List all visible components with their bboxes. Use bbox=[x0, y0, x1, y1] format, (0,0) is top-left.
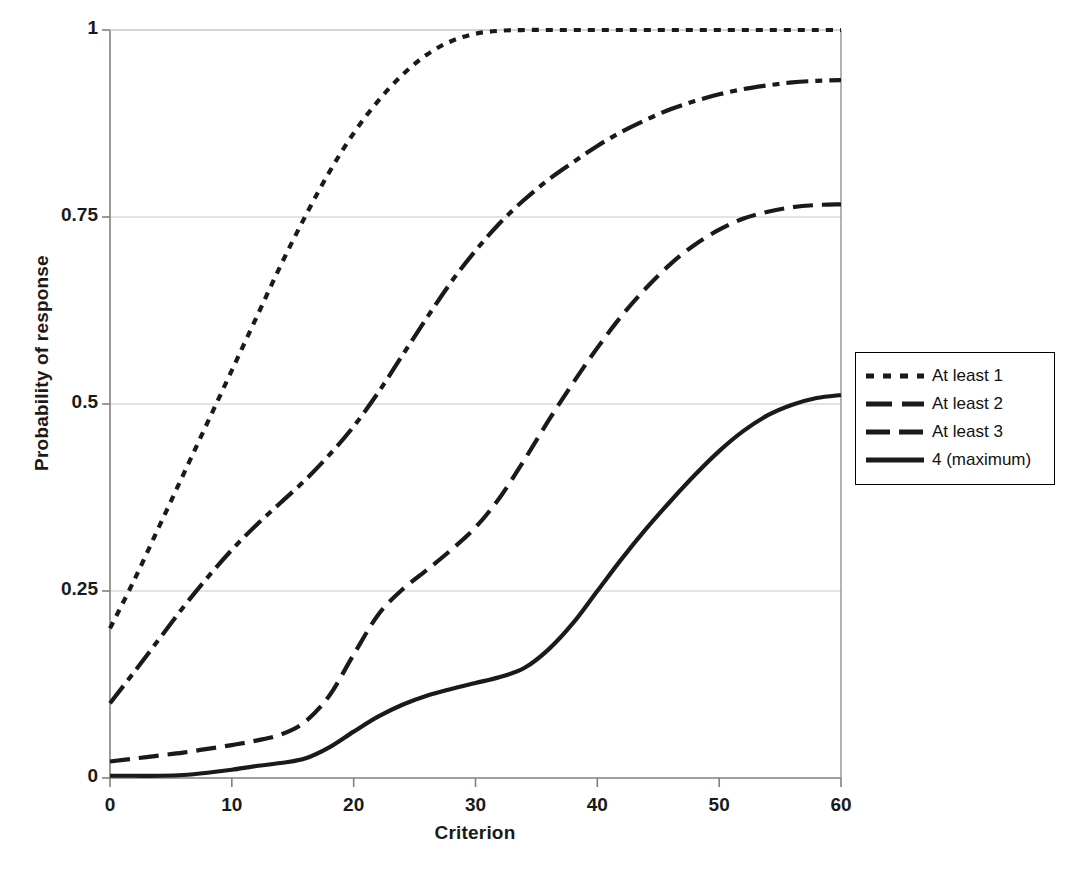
legend-item-label: At least 2 bbox=[932, 394, 1003, 414]
series-line-at-least-3 bbox=[110, 204, 841, 761]
legend-swatch-icon bbox=[864, 425, 926, 439]
x-axis-label: Criterion bbox=[0, 822, 950, 844]
x-tick-label-40: 40 bbox=[567, 794, 627, 816]
y-tick-label-0.75: 0.75 bbox=[18, 204, 98, 226]
series-line-at-least-1 bbox=[110, 30, 841, 628]
chart-page: Probability of response Criterion 00.250… bbox=[0, 0, 1067, 887]
y-tick-label-0: 0 bbox=[18, 765, 98, 787]
y-tick-label-0.5: 0.5 bbox=[18, 391, 98, 413]
x-tick-label-0: 0 bbox=[80, 794, 140, 816]
legend-item-at-least-2[interactable]: At least 2 bbox=[864, 390, 1046, 418]
legend-item-label: 4 (maximum) bbox=[932, 450, 1031, 470]
legend-item-label: At least 3 bbox=[932, 422, 1003, 442]
legend-item-at-least-3[interactable]: At least 3 bbox=[864, 418, 1046, 446]
legend-swatch-icon bbox=[864, 453, 926, 467]
x-tick-label-20: 20 bbox=[324, 794, 384, 816]
plot-area: Probability of response Criterion 00.250… bbox=[0, 0, 1067, 887]
chart-legend: At least 1At least 2At least 34 (maximum… bbox=[855, 352, 1055, 485]
y-axis-label: Probability of response bbox=[31, 233, 53, 493]
x-tick-label-50: 50 bbox=[689, 794, 749, 816]
y-tick-label-0.25: 0.25 bbox=[18, 578, 98, 600]
series-line-4-maximum bbox=[110, 395, 841, 776]
x-tick-label-30: 30 bbox=[446, 794, 506, 816]
legend-item-at-least-1[interactable]: At least 1 bbox=[864, 362, 1046, 390]
legend-item-label: At least 1 bbox=[932, 366, 1003, 386]
gridlines bbox=[110, 30, 841, 591]
y-tick-label-1: 1 bbox=[18, 17, 98, 39]
data-series-group bbox=[110, 30, 841, 776]
legend-swatch-icon bbox=[864, 369, 926, 383]
legend-item-4-maximum[interactable]: 4 (maximum) bbox=[864, 446, 1046, 474]
series-line-at-least-2 bbox=[110, 80, 841, 703]
x-tick-label-10: 10 bbox=[202, 794, 262, 816]
legend-swatch-icon bbox=[864, 397, 926, 411]
x-tick-label-60: 60 bbox=[811, 794, 871, 816]
